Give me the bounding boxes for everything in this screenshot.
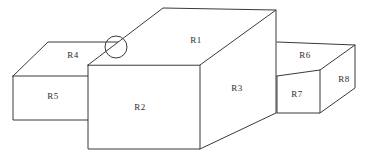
face-label-r3: R3: [231, 83, 242, 93]
block-diagram: R1 R2 R3 R4 R5 R6 R7 R8: [0, 0, 370, 157]
face-label-r6: R6: [299, 50, 310, 60]
diagram-canvas: R1 R2 R3 R4 R5 R6 R7 R8: [0, 0, 370, 157]
main-block: [88, 8, 276, 149]
face-label-r7: R7: [291, 89, 302, 99]
face-label-r5: R5: [47, 91, 58, 101]
face-label-r2: R2: [134, 102, 145, 112]
face-label-r8: R8: [338, 74, 349, 84]
face-label-r4: R4: [67, 50, 78, 60]
face-label-r1: R1: [190, 35, 201, 45]
